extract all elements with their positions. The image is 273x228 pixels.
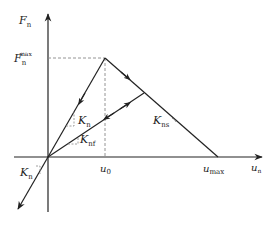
u0-label: u0: [100, 163, 111, 176]
compression-line: [18, 157, 48, 209]
kn-lower-label: Kn: [19, 166, 33, 181]
umax-label: umax: [203, 163, 224, 176]
fmax-label: Fnmax: [13, 50, 32, 67]
y-axis-label: Fn: [18, 14, 32, 29]
unload-direction-arrow: [106, 113, 114, 118]
force-displacement-diagram: Fn un Fnmax u0 umax Kn Knf Kns Kn: [0, 0, 273, 228]
x-axis-label: un: [251, 162, 261, 174]
kns-label: Kns: [152, 114, 170, 129]
reload-direction-arrow: [120, 104, 128, 109]
knf-unload-reload-line: [48, 93, 144, 157]
softening-direction-arrow: [121, 72, 128, 78]
kn-direction-arrow: [80, 93, 85, 102]
knf-label: Knf: [79, 133, 97, 148]
kn-loading-line: [48, 58, 105, 157]
kn-upper-label: Kn: [77, 114, 91, 129]
